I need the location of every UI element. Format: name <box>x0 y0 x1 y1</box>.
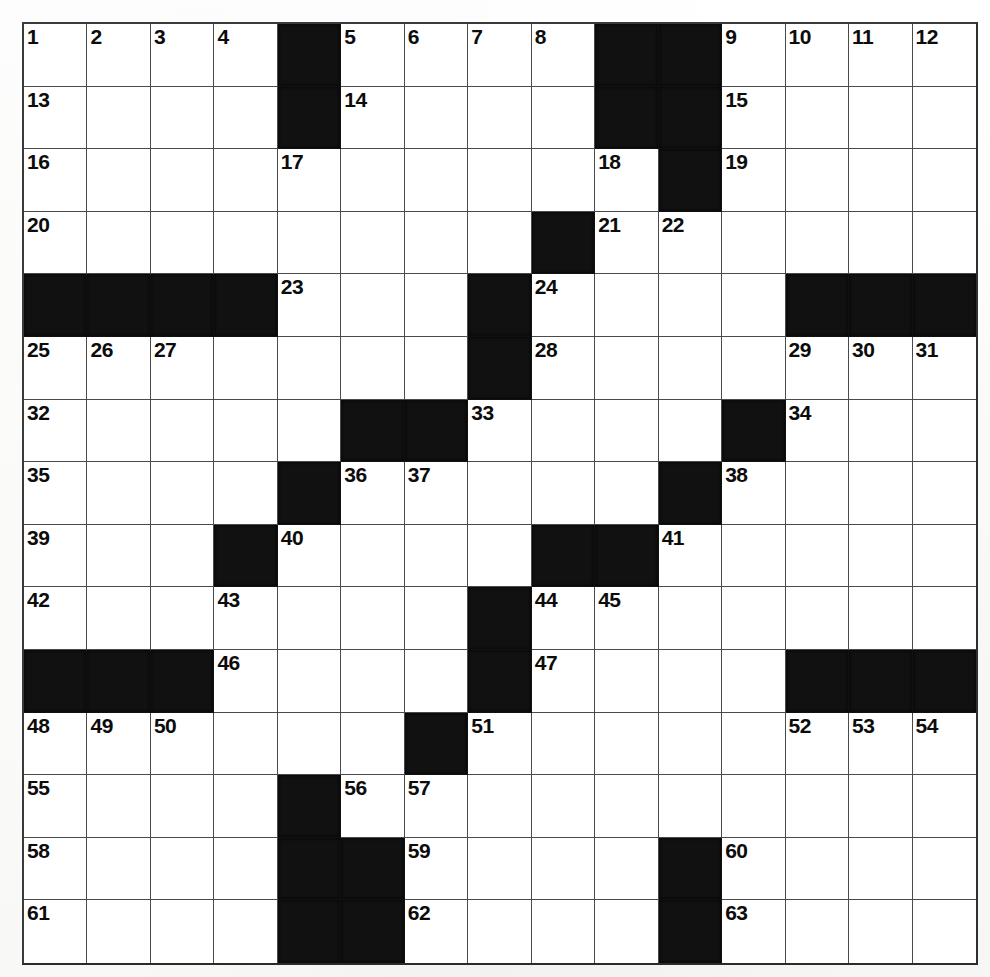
letter-cell[interactable] <box>786 587 849 650</box>
letter-cell[interactable]: 45 <box>595 587 658 650</box>
letter-cell[interactable] <box>214 838 277 901</box>
letter-cell[interactable]: 59 <box>405 838 468 901</box>
letter-cell[interactable] <box>849 212 912 275</box>
letter-cell[interactable] <box>151 149 214 212</box>
letter-cell[interactable]: 35 <box>24 462 87 525</box>
letter-cell[interactable]: 8 <box>532 24 595 87</box>
letter-cell[interactable] <box>595 838 658 901</box>
letter-cell[interactable] <box>151 212 214 275</box>
letter-cell[interactable]: 57 <box>405 775 468 838</box>
letter-cell[interactable] <box>532 713 595 776</box>
letter-cell[interactable] <box>532 400 595 463</box>
letter-cell[interactable] <box>532 462 595 525</box>
letter-cell[interactable]: 43 <box>214 587 277 650</box>
letter-cell[interactable] <box>849 400 912 463</box>
letter-cell[interactable] <box>341 713 404 776</box>
letter-cell[interactable] <box>405 337 468 400</box>
letter-cell[interactable] <box>786 838 849 901</box>
letter-cell[interactable] <box>913 212 976 275</box>
letter-cell[interactable] <box>468 775 531 838</box>
letter-cell[interactable]: 28 <box>532 337 595 400</box>
letter-cell[interactable]: 18 <box>595 149 658 212</box>
letter-cell[interactable] <box>722 775 785 838</box>
letter-cell[interactable]: 29 <box>786 337 849 400</box>
letter-cell[interactable]: 12 <box>913 24 976 87</box>
letter-cell[interactable] <box>722 337 785 400</box>
letter-cell[interactable] <box>659 587 722 650</box>
letter-cell[interactable] <box>341 149 404 212</box>
letter-cell[interactable] <box>913 462 976 525</box>
letter-cell[interactable] <box>214 337 277 400</box>
letter-cell[interactable] <box>913 900 976 963</box>
letter-cell[interactable]: 33 <box>468 400 531 463</box>
letter-cell[interactable]: 52 <box>786 713 849 776</box>
letter-cell[interactable] <box>595 775 658 838</box>
letter-cell[interactable]: 17 <box>278 149 341 212</box>
letter-cell[interactable] <box>468 900 531 963</box>
letter-cell[interactable] <box>786 900 849 963</box>
letter-cell[interactable] <box>87 900 150 963</box>
letter-cell[interactable] <box>913 587 976 650</box>
letter-cell[interactable]: 46 <box>214 650 277 713</box>
letter-cell[interactable] <box>595 650 658 713</box>
letter-cell[interactable] <box>405 149 468 212</box>
letter-cell[interactable]: 3 <box>151 24 214 87</box>
letter-cell[interactable] <box>468 525 531 588</box>
letter-cell[interactable] <box>405 212 468 275</box>
letter-cell[interactable]: 58 <box>24 838 87 901</box>
letter-cell[interactable] <box>341 650 404 713</box>
letter-cell[interactable] <box>87 400 150 463</box>
letter-cell[interactable]: 39 <box>24 525 87 588</box>
letter-cell[interactable] <box>786 775 849 838</box>
letter-cell[interactable]: 53 <box>849 713 912 776</box>
letter-cell[interactable]: 63 <box>722 900 785 963</box>
letter-cell[interactable]: 31 <box>913 337 976 400</box>
crossword-grid[interactable]: 1234567891011121314151617181920212223242… <box>22 22 978 965</box>
letter-cell[interactable]: 34 <box>786 400 849 463</box>
letter-cell[interactable] <box>214 400 277 463</box>
letter-cell[interactable]: 56 <box>341 775 404 838</box>
letter-cell[interactable] <box>595 400 658 463</box>
letter-cell[interactable] <box>214 713 277 776</box>
letter-cell[interactable]: 38 <box>722 462 785 525</box>
letter-cell[interactable]: 47 <box>532 650 595 713</box>
letter-cell[interactable] <box>87 525 150 588</box>
letter-cell[interactable]: 32 <box>24 400 87 463</box>
letter-cell[interactable] <box>468 462 531 525</box>
letter-cell[interactable] <box>786 87 849 150</box>
letter-cell[interactable]: 24 <box>532 274 595 337</box>
letter-cell[interactable] <box>659 775 722 838</box>
letter-cell[interactable] <box>341 587 404 650</box>
letter-cell[interactable] <box>849 87 912 150</box>
letter-cell[interactable]: 40 <box>278 525 341 588</box>
letter-cell[interactable] <box>341 274 404 337</box>
letter-cell[interactable]: 54 <box>913 713 976 776</box>
letter-cell[interactable] <box>913 149 976 212</box>
letter-cell[interactable] <box>214 462 277 525</box>
letter-cell[interactable] <box>151 900 214 963</box>
letter-cell[interactable] <box>722 525 785 588</box>
letter-cell[interactable] <box>595 900 658 963</box>
letter-cell[interactable] <box>849 900 912 963</box>
letter-cell[interactable]: 30 <box>849 337 912 400</box>
letter-cell[interactable]: 26 <box>87 337 150 400</box>
letter-cell[interactable]: 19 <box>722 149 785 212</box>
letter-cell[interactable]: 48 <box>24 713 87 776</box>
letter-cell[interactable]: 27 <box>151 337 214 400</box>
letter-cell[interactable] <box>659 337 722 400</box>
letter-cell[interactable]: 44 <box>532 587 595 650</box>
letter-cell[interactable]: 49 <box>87 713 150 776</box>
letter-cell[interactable]: 11 <box>849 24 912 87</box>
letter-cell[interactable]: 9 <box>722 24 785 87</box>
letter-cell[interactable]: 61 <box>24 900 87 963</box>
letter-cell[interactable] <box>278 650 341 713</box>
letter-cell[interactable] <box>659 274 722 337</box>
letter-cell[interactable] <box>341 337 404 400</box>
letter-cell[interactable] <box>786 212 849 275</box>
letter-cell[interactable] <box>341 525 404 588</box>
letter-cell[interactable] <box>849 775 912 838</box>
letter-cell[interactable] <box>87 775 150 838</box>
letter-cell[interactable] <box>151 462 214 525</box>
letter-cell[interactable] <box>595 337 658 400</box>
letter-cell[interactable] <box>468 149 531 212</box>
